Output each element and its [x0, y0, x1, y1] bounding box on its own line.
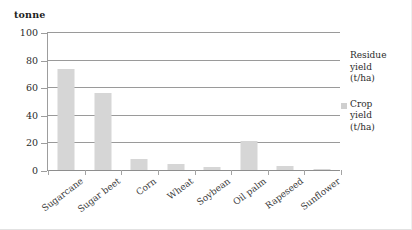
x-axis-category-label: Corn: [135, 176, 159, 197]
bar-chart-figure: tonne 020406080100 SugarcaneSugar beetCo…: [0, 0, 412, 230]
bar-slot: [304, 32, 341, 170]
bar-slot: [121, 32, 158, 170]
legend-label: Cropyield(t/ha): [350, 99, 375, 134]
y-axis-tick: [41, 143, 47, 144]
bar-slot: [194, 32, 231, 170]
legend-swatch-icon: [341, 54, 347, 60]
bar[interactable]: [240, 141, 257, 170]
legend-entry[interactable]: Cropyield(t/ha): [341, 99, 411, 134]
y-axis-tick: [41, 88, 47, 89]
bar[interactable]: [94, 93, 111, 170]
y-axis-tick: [41, 33, 47, 34]
y-axis-unit-label: tonne: [14, 9, 46, 20]
bar-slot: [267, 32, 304, 170]
legend-label-line: Crop: [350, 99, 375, 111]
y-axis-tick-label: 100: [20, 27, 38, 38]
plot-area: 020406080100: [47, 32, 340, 170]
legend-label-line: (t/ha): [350, 73, 386, 85]
x-axis-labels-group: SugarcaneSugar beetCornWheatSoybeanOil p…: [47, 170, 347, 230]
x-axis-category-label: Soybean: [195, 176, 232, 207]
legend-label-line: yield: [350, 62, 386, 74]
x-axis-category-label: Sunflower: [298, 176, 341, 212]
y-axis-tick-label: 80: [26, 54, 38, 65]
legend-label: Residueyield(t/ha): [350, 50, 386, 85]
legend-swatch-icon: [341, 103, 347, 109]
bar-slot: [231, 32, 268, 170]
legend-label-line: Residue: [350, 50, 386, 62]
y-axis-tick-label: 0: [32, 165, 38, 176]
x-axis-category-label: Rapeseed: [263, 176, 305, 211]
x-axis-category-label: Wheat: [166, 176, 195, 202]
bars-group: [48, 32, 340, 170]
chart-legend: Residueyield(t/ha)Cropyield(t/ha): [341, 50, 411, 147]
bar-slot: [48, 32, 85, 170]
bar[interactable]: [131, 159, 148, 170]
y-axis-tick-label: 40: [26, 109, 38, 120]
y-axis-tick: [41, 116, 47, 117]
legend-label-line: (t/ha): [350, 122, 375, 134]
legend-entry[interactable]: Residueyield(t/ha): [341, 50, 411, 85]
bar-slot: [158, 32, 195, 170]
y-axis-tick-label: 60: [26, 82, 38, 93]
bar-slot: [85, 32, 122, 170]
bar[interactable]: [58, 69, 75, 170]
y-axis-tick-label: 20: [26, 137, 38, 148]
legend-label-line: yield: [350, 110, 375, 122]
y-axis-tick: [41, 61, 47, 62]
